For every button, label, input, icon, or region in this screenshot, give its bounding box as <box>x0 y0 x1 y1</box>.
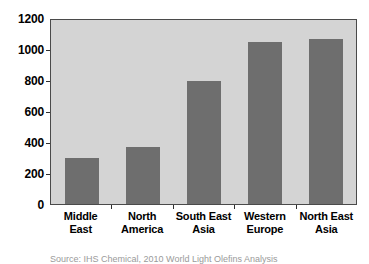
bars-layer <box>51 20 356 204</box>
y-tick-mark <box>46 81 50 82</box>
source-note: Source: IHS Chemical, 2010 World Light O… <box>50 255 350 264</box>
x-tick-label: North EastAsia <box>297 210 355 236</box>
x-tick-mark <box>234 205 235 209</box>
bar <box>187 81 221 204</box>
y-tick-mark <box>46 50 50 51</box>
x-tick-mark <box>296 205 297 209</box>
plot-area <box>50 19 357 205</box>
bar <box>126 147 160 204</box>
x-tick-mark <box>111 205 112 209</box>
x-tick-label: NorthAmerica <box>113 210 171 236</box>
y-tick-mark <box>46 112 50 113</box>
y-tick-mark <box>46 174 50 175</box>
y-tick-mark <box>46 143 50 144</box>
y-tick-label: 1200 <box>0 13 44 25</box>
x-axis: Middle EastNorthAmericaSouth EastAsiaWes… <box>50 210 357 244</box>
y-tick-label: 200 <box>0 168 44 180</box>
x-tick-label: WesternEurope <box>236 210 294 236</box>
x-tick-label: Middle East <box>52 210 110 236</box>
y-axis: 020040060080010001200 <box>0 0 44 264</box>
bar <box>248 42 282 204</box>
bar <box>309 39 343 204</box>
x-tick-label: South EastAsia <box>174 210 232 236</box>
bar-chart-figure: 020040060080010001200 Middle EastNorthAm… <box>0 0 369 264</box>
y-tick-label: 800 <box>0 75 44 87</box>
y-tick-label: 1000 <box>0 44 44 56</box>
y-tick-label: 400 <box>0 137 44 149</box>
y-tick-label: 600 <box>0 106 44 118</box>
x-tick-mark <box>173 205 174 209</box>
y-tick-label: 0 <box>0 199 44 211</box>
bar <box>65 158 99 205</box>
